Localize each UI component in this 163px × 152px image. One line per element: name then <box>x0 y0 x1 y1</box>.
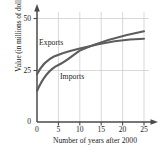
x-tick-label-5: 5 <box>51 125 65 134</box>
y-axis-title: Value (in millions of dollars) <box>14 0 23 85</box>
x-tick-label-25: 25 <box>137 125 151 134</box>
series-annotation-imports: Imports <box>60 72 84 81</box>
x-tick-label-20: 20 <box>116 125 130 134</box>
x-tick-label-15: 15 <box>94 125 108 134</box>
chart-figure: 50 25 0 0 5 10 15 20 25 Exports Imports … <box>0 0 163 152</box>
x-axis-arrowhead <box>151 119 159 125</box>
series-annotation-exports: Exports <box>39 38 63 47</box>
y-axis-arrowhead <box>34 4 40 12</box>
x-axis-title: Number of years after 2000 <box>32 136 158 145</box>
y-tick-label-0: 0 <box>12 117 31 126</box>
x-tick-label-0: 0 <box>30 125 44 134</box>
x-tick-label-10: 10 <box>73 125 87 134</box>
